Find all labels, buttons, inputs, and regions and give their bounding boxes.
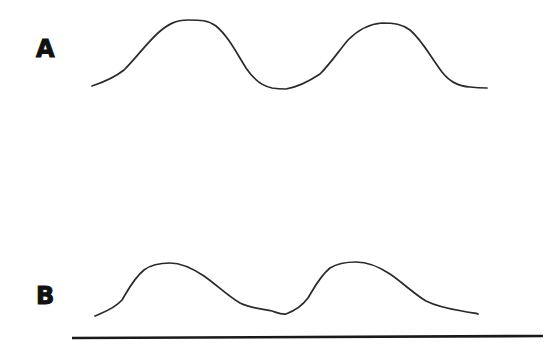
- waveform-plot: [0, 0, 554, 356]
- figure-canvas: A B: [0, 0, 554, 356]
- trace-b-waveform: [95, 262, 478, 316]
- baseline: [72, 336, 543, 338]
- trace-a-waveform: [92, 20, 487, 89]
